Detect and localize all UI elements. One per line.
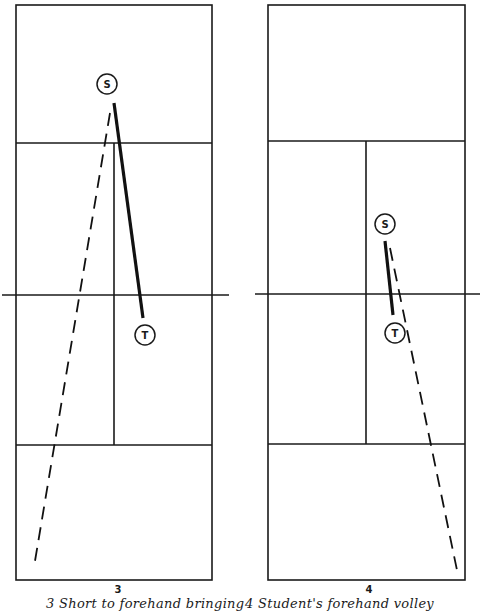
- dashed-shuttle-path: [390, 248, 458, 575]
- court-figure-4: S T 4: [255, 5, 480, 595]
- solid-shuttle-path: [385, 241, 393, 315]
- player-s-marker: S: [375, 214, 395, 234]
- player-s-label: S: [103, 79, 110, 90]
- figure-number: 3: [115, 584, 122, 595]
- player-t-marker: T: [135, 325, 155, 345]
- player-t-marker: T: [385, 323, 405, 343]
- player-s-marker: S: [97, 74, 117, 94]
- figure-number: 4: [366, 584, 373, 595]
- court-figure-3: S T 3: [2, 5, 229, 595]
- figure-3-caption: 3 Short to forehand bringing: [46, 596, 244, 611]
- solid-shuttle-path: [114, 103, 143, 318]
- figure-4-caption: 4 Student's forehand volley: [245, 596, 434, 611]
- player-t-label: T: [142, 330, 149, 341]
- player-t-label: T: [392, 328, 399, 339]
- dashed-shuttle-path: [34, 113, 110, 567]
- player-s-label: S: [381, 219, 388, 230]
